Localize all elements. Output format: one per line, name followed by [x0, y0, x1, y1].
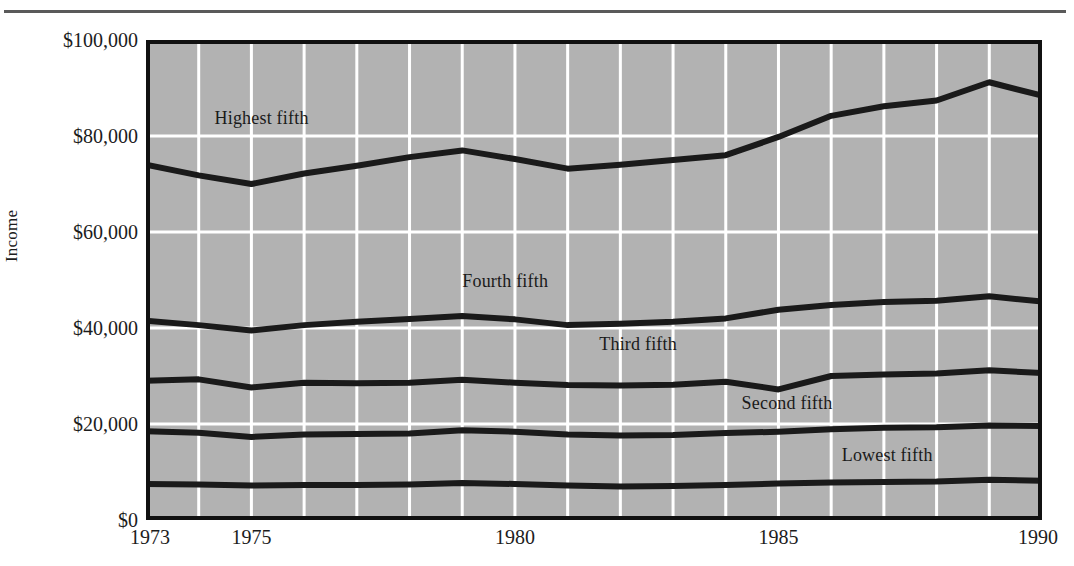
series-label: Lowest fifth	[842, 445, 933, 466]
series-label: Second fifth	[742, 393, 833, 414]
series-label: Third fifth	[599, 334, 677, 355]
plot-area: Highest fifthFourth fifthThird fifthSeco…	[146, 40, 1042, 520]
x-axis-tick-label: 1990	[1018, 526, 1058, 549]
income-quintiles-chart-figure: Income $0$20,000$40,000$60,000$80,000$10…	[0, 0, 1074, 566]
series-label: Fourth fifth	[462, 271, 548, 292]
x-axis-tick-label: 1980	[495, 526, 535, 549]
series-label: Highest fifth	[215, 108, 309, 129]
x-axis-tick-label: 1975	[231, 526, 271, 549]
x-axis-tick-label: 1985	[758, 526, 798, 549]
x-axis-tick-label: 1973	[130, 526, 170, 549]
